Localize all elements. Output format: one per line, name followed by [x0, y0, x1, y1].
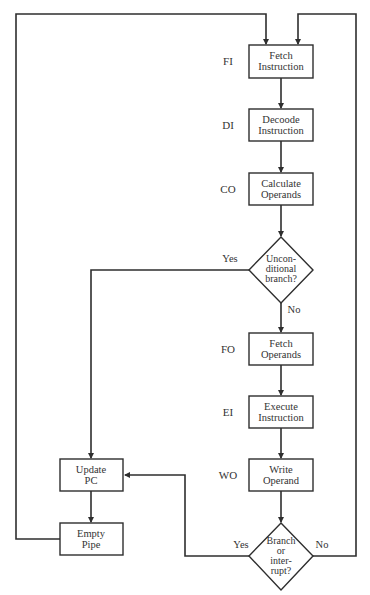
stage-label-fo: FO — [221, 343, 235, 355]
decode-instruction-line2: Instruction — [258, 125, 304, 136]
fetch-operands-line1: Fetch — [269, 338, 293, 349]
arrow-unconditional-yes-to-update-pc — [91, 270, 249, 458]
decision1-yes-label: Yes — [222, 253, 237, 264]
decision2-line4: rupt? — [271, 565, 292, 576]
empty-pipe-line2: Pipe — [82, 539, 101, 550]
pipeline-flowchart: FI DI CO FO EI WO Fetch Instruction Deco… — [0, 0, 370, 595]
stage-label-co: CO — [220, 183, 235, 195]
decision1-line3: branch? — [265, 273, 297, 284]
stage-label-fi: FI — [223, 55, 233, 67]
stage-label-di: DI — [222, 119, 234, 131]
decision2-no-label: No — [316, 539, 329, 550]
decision1-no-label: No — [288, 304, 301, 315]
write-operand-line1: Write — [269, 464, 293, 475]
update-pc-line1: Update — [76, 464, 107, 475]
calculate-operands-line2: Operands — [261, 189, 301, 200]
loop-empty-pipe-to-fetch — [16, 14, 266, 539]
stage-label-ei: EI — [223, 406, 234, 418]
update-pc-line2: PC — [85, 475, 98, 486]
write-operand-line2: Operand — [263, 475, 300, 486]
calculate-operands-line1: Calculate — [261, 178, 301, 189]
empty-pipe-line1: Empty — [77, 528, 106, 539]
fetch-instruction-line1: Fetch — [269, 50, 293, 61]
decision2-yes-label: Yes — [233, 539, 248, 550]
arrow-branch-yes-to-update-pc — [125, 475, 249, 556]
execute-instruction-line2: Instruction — [258, 412, 304, 423]
fetch-instruction-line2: Instruction — [258, 61, 304, 72]
stage-label-wo: WO — [219, 469, 237, 481]
fetch-operands-line2: Operands — [261, 349, 301, 360]
decode-instruction-line1: Decoode — [262, 114, 300, 125]
execute-instruction-line1: Execute — [264, 401, 298, 412]
